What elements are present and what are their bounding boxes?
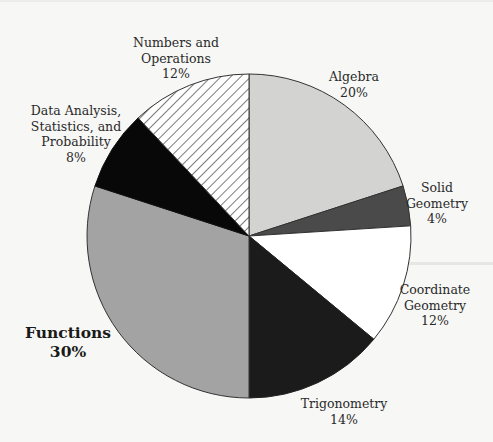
label-text: Data Analysis, xyxy=(31,103,121,119)
label-percent: 12% xyxy=(400,313,471,329)
label-text: Trigonometry xyxy=(301,396,388,412)
label-text: Geometry xyxy=(406,196,468,212)
label-percent: 14% xyxy=(301,412,388,428)
label-percent: 30% xyxy=(25,342,111,361)
label-percent: 8% xyxy=(31,150,121,166)
chart-canvas: Numbers and Operations 12% Algebra 20% D… xyxy=(0,0,493,442)
label-text: Probability xyxy=(31,134,121,150)
label-data-analysis: Data Analysis, Statistics, and Probabili… xyxy=(31,103,121,165)
label-text: Operations xyxy=(133,51,219,67)
label-trigonometry: Trigonometry 14% xyxy=(301,396,388,427)
label-text: Numbers and xyxy=(133,35,219,51)
label-text: Solid xyxy=(406,180,468,196)
label-functions: Functions 30% xyxy=(25,323,111,361)
label-text: Statistics, and xyxy=(31,119,121,135)
label-text: Geometry xyxy=(400,298,471,314)
label-solid-geometry: Solid Geometry 4% xyxy=(406,180,468,227)
label-text: Algebra xyxy=(329,69,379,85)
label-percent: 4% xyxy=(406,211,468,227)
label-coordinate-geometry: Coordinate Geometry 12% xyxy=(400,282,471,329)
label-text: Functions xyxy=(25,323,111,342)
label-algebra: Algebra 20% xyxy=(329,69,379,100)
label-percent: 12% xyxy=(133,66,219,82)
label-numbers-operations: Numbers and Operations 12% xyxy=(133,35,219,82)
label-text: Coordinate xyxy=(400,282,471,298)
label-percent: 20% xyxy=(329,85,379,101)
